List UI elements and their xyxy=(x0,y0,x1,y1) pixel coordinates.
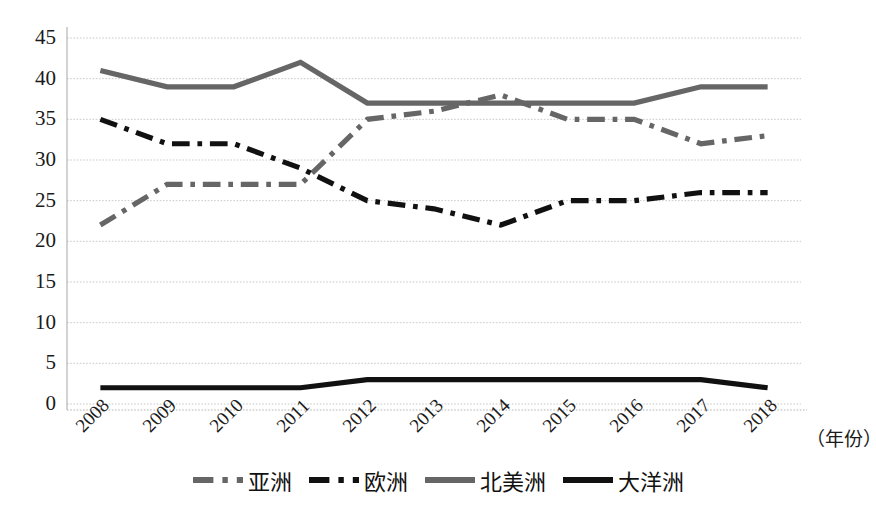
chart-legend: 亚洲欧洲北美洲大洋洲 xyxy=(0,464,876,496)
series-line-1 xyxy=(100,119,767,225)
series-line-2 xyxy=(100,62,767,103)
x-axis-title: （年份） xyxy=(806,424,876,451)
legend-entry[interactable]: 北美洲 xyxy=(424,464,546,496)
y-axis-tick-label: 40 xyxy=(14,68,56,89)
y-axis-tick-label: 15 xyxy=(14,271,56,292)
plot-area xyxy=(0,0,876,520)
y-axis-tick-label: 10 xyxy=(14,312,56,333)
y-axis-tick-label: 0 xyxy=(14,393,56,414)
legend-label: 欧洲 xyxy=(364,464,408,496)
y-axis-tick-label: 5 xyxy=(14,352,56,373)
y-axis-tick-label: 45 xyxy=(14,27,56,48)
y-axis-tick-label: 20 xyxy=(14,230,56,251)
legend-swatch-2 xyxy=(424,473,476,487)
y-axis-tick-label: 30 xyxy=(14,149,56,170)
gridlines xyxy=(67,38,801,404)
legend-label: 北美洲 xyxy=(480,464,546,496)
legend-entry[interactable]: 欧洲 xyxy=(308,464,408,496)
legend-swatch-0 xyxy=(192,473,244,487)
series-line-3 xyxy=(100,380,767,388)
legend-swatch-3 xyxy=(562,473,614,487)
legend-label: 大洋洲 xyxy=(618,464,684,496)
legend-label: 亚洲 xyxy=(248,464,292,496)
series-group xyxy=(100,62,767,387)
series-line-0 xyxy=(100,95,767,225)
legend-entry[interactable]: 大洋洲 xyxy=(562,464,684,496)
y-axis-tick-label: 35 xyxy=(14,108,56,129)
legend-entry[interactable]: 亚洲 xyxy=(192,464,292,496)
line-chart: 454035302520151050 200820092010201120122… xyxy=(0,0,876,520)
legend-swatch-1 xyxy=(308,473,360,487)
y-axis-tick-label: 25 xyxy=(14,190,56,211)
